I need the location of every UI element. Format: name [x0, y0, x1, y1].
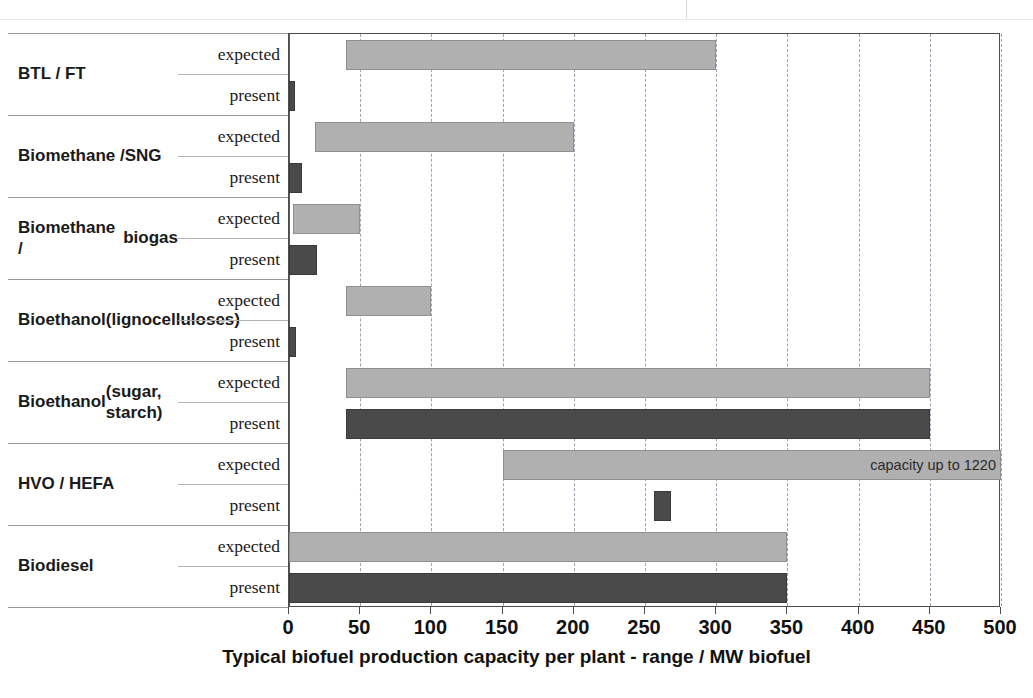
category-label-line: Bioethanol [18, 310, 106, 330]
series-label-expected: expected [178, 444, 289, 485]
series-labels: expectedpresent [178, 280, 289, 361]
category-group: Bioethanol(sugar, starch)expectedpresent [8, 362, 289, 444]
series-labels: expectedpresent [178, 198, 289, 279]
category-label-line: Biodiesel [18, 556, 94, 576]
category-label: BTL / FT [8, 34, 178, 115]
category-label-line: (sugar, starch) [106, 382, 178, 422]
bar-expected: capacity up to 1220 [503, 450, 1001, 480]
series-labels: expectedpresent [178, 34, 289, 115]
series-labels: expectedpresent [178, 362, 289, 443]
x-tick-500 [1000, 607, 1001, 614]
gridline-150 [503, 34, 504, 606]
series-label-present: present [178, 157, 289, 197]
category-label: Bioethanol(sugar, starch) [8, 362, 178, 443]
x-tick-350 [786, 607, 787, 614]
x-tick-label-350: 350 [770, 616, 803, 639]
category-group: Biodieselexpectedpresent [8, 526, 289, 608]
category-group: Biomethane /SNGexpectedpresent [8, 116, 289, 198]
bar-present [654, 491, 671, 521]
gridline-50 [360, 34, 361, 606]
gridline-350 [787, 34, 788, 606]
series-label-present: present [178, 321, 289, 361]
category-label: Biodiesel [8, 526, 178, 607]
category-axis-table: BTL / FTexpectedpresentBiomethane /SNGex… [8, 33, 289, 607]
series-label-present: present [178, 239, 289, 279]
plot-area: capacity up to 1220 [288, 33, 1000, 607]
x-tick-label-100: 100 [414, 616, 447, 639]
scan-artifact-mark [686, 0, 687, 18]
biofuel-capacity-chart: BTL / FTexpectedpresentBiomethane /SNGex… [0, 0, 1033, 698]
series-label-present: present [178, 485, 289, 525]
x-tick-label-250: 250 [627, 616, 660, 639]
series-label-expected: expected [178, 280, 289, 321]
x-tick-50 [359, 607, 360, 614]
series-label-expected: expected [178, 362, 289, 403]
bar-expected [346, 40, 716, 70]
x-tick-label-450: 450 [912, 616, 945, 639]
bar-expected [293, 204, 360, 234]
x-tick-150 [502, 607, 503, 614]
bar-present [289, 573, 787, 603]
x-tick-label-50: 50 [348, 616, 370, 639]
series-label-expected: expected [178, 116, 289, 157]
bar-present [346, 409, 930, 439]
x-tick-label-0: 0 [282, 616, 293, 639]
gridline-0 [289, 34, 290, 606]
scan-artifact-line [0, 19, 1033, 20]
x-tick-label-500: 500 [983, 616, 1016, 639]
series-labels: expectedpresent [178, 116, 289, 197]
x-tick-250 [644, 607, 645, 614]
category-label-line: SNG [125, 146, 162, 166]
bar-expected [346, 286, 431, 316]
bar-present [289, 163, 302, 193]
series-label-present: present [178, 567, 289, 607]
gridline-500 [1001, 34, 1002, 606]
bar-present [289, 81, 295, 111]
x-tick-label-400: 400 [841, 616, 874, 639]
bar-expected [289, 532, 787, 562]
bar-expected [346, 368, 930, 398]
series-label-present: present [178, 403, 289, 443]
series-label-expected: expected [178, 34, 289, 75]
category-label: Biomethane /SNG [8, 116, 178, 197]
category-label: Biomethane /biogas [8, 198, 178, 279]
series-label-expected: expected [178, 198, 289, 239]
x-tick-label-200: 200 [556, 616, 589, 639]
category-label-line: HVO / HEFA [18, 474, 114, 494]
series-labels: expectedpresent [178, 444, 289, 525]
x-tick-450 [929, 607, 930, 614]
x-tick-0 [288, 607, 289, 614]
bar-present [289, 245, 317, 275]
gridline-450 [930, 34, 931, 606]
category-group: BTL / FTexpectedpresent [8, 34, 289, 116]
bar-expected [315, 122, 574, 152]
category-group: HVO / HEFAexpectedpresent [8, 444, 289, 526]
category-label-line: biogas [123, 228, 178, 248]
category-label-line: Biomethane / [18, 218, 123, 258]
category-label-line: BTL / FT [18, 64, 86, 84]
series-label-expected: expected [178, 526, 289, 567]
gridline-300 [716, 34, 717, 606]
category-group: Bioethanol(lignocelluloses)expectedprese… [8, 280, 289, 362]
gridline-400 [859, 34, 860, 606]
x-tick-200 [573, 607, 574, 614]
bar-annotation: capacity up to 1220 [870, 457, 996, 473]
category-label-line: Bioethanol [18, 392, 106, 412]
category-label-line: Biomethane / [18, 146, 125, 166]
x-tick-100 [430, 607, 431, 614]
x-tick-label-150: 150 [485, 616, 518, 639]
category-label: Bioethanol(lignocelluloses) [8, 280, 178, 361]
gridline-200 [574, 34, 575, 606]
category-label: HVO / HEFA [8, 444, 178, 525]
x-tick-label-300: 300 [699, 616, 732, 639]
x-axis-title: Typical biofuel production capacity per … [0, 646, 1033, 668]
gridline-250 [645, 34, 646, 606]
x-tick-400 [858, 607, 859, 614]
series-label-present: present [178, 75, 289, 115]
category-group: Biomethane /biogasexpectedpresent [8, 198, 289, 280]
gridline-100 [431, 34, 432, 606]
x-tick-300 [715, 607, 716, 614]
bar-present [289, 327, 296, 357]
series-labels: expectedpresent [178, 526, 289, 607]
